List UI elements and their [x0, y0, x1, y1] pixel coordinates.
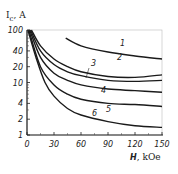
y-tick-label: 100 — [8, 26, 23, 35]
curve-label-3: 3 — [91, 59, 96, 68]
curve-label-6: 6 — [92, 109, 97, 118]
y-tick-label: 20 — [13, 63, 23, 72]
y-tick-label: 40 — [13, 47, 23, 56]
x-tick-label: 120 — [127, 140, 142, 149]
curve-label-4: 4 — [101, 86, 106, 95]
y-tick-label: 2 — [18, 115, 23, 124]
x-axis-label: H, kOe — [130, 152, 161, 162]
curve-label-2: 2 — [117, 53, 122, 62]
x-tick-label: 30 — [49, 140, 59, 149]
chart: 1241020401000306090120150123456 Ic, A H,… — [0, 0, 178, 174]
x-tick-label: 90 — [103, 140, 113, 149]
y-tick-label: 10 — [13, 79, 23, 88]
y-tick-label: 4 — [18, 99, 23, 108]
curve-label-5: 5 — [106, 105, 111, 114]
x-tick-label: 60 — [76, 140, 86, 149]
x-tick-label: 150 — [154, 140, 169, 149]
y-axis-label: Ic, A — [6, 10, 26, 23]
x-tick-label: 0 — [24, 140, 29, 149]
curve-label-1: 1 — [120, 39, 125, 48]
y-tick-label: 1 — [18, 131, 23, 140]
curve-1 — [66, 38, 162, 59]
